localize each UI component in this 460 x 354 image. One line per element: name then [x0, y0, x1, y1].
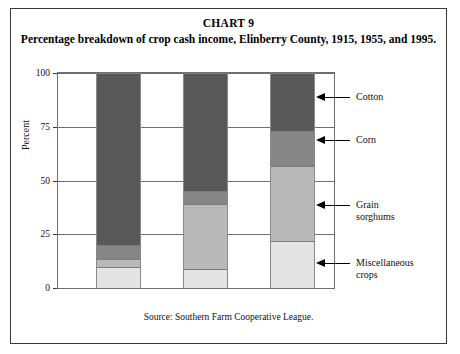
tick-mark-0 [53, 288, 57, 289]
tick-mark-25 [53, 234, 57, 235]
bar-1995-grain-sorghums[interactable] [270, 166, 315, 241]
bar-1955-corn[interactable] [183, 191, 228, 204]
chart-number: CHART 9 [12, 16, 445, 31]
arrow-left-icon [316, 135, 350, 146]
legend-annotation-grain-sorghums: Grain sorghums [316, 200, 395, 222]
y-tick-label-25: 25 [41, 230, 51, 239]
legend-annotation-corn: Corn [316, 135, 376, 146]
legend-label-grain-sorghums: Grain sorghums [356, 199, 395, 222]
y-axis-label: Percent [20, 120, 31, 150]
bar-1995-corn[interactable] [270, 131, 315, 165]
bar-1915-corn[interactable] [96, 245, 141, 259]
y-tick-label-100: 100 [36, 69, 50, 78]
source-note: Source: Southern Farm Cooperative League… [12, 312, 445, 322]
legend-label-miscellaneous-crops: Miscellaneous crops [356, 257, 414, 280]
bar-1995-miscellaneous-crops[interactable] [270, 241, 315, 288]
bar-1915-miscellaneous-crops[interactable] [96, 267, 141, 289]
bar-1955-grain-sorghums[interactable] [183, 204, 228, 269]
tick-mark-75 [53, 127, 57, 128]
tick-mark-100 [53, 73, 57, 74]
bar-1995-cotton[interactable] [270, 73, 315, 131]
bar-1955-miscellaneous-crops[interactable] [183, 269, 228, 288]
bar-1915-cotton[interactable] [96, 73, 141, 245]
plot-area: 100 75 50 25 0 [57, 72, 335, 289]
chart-title: Percentage breakdown of crop cash income… [12, 31, 445, 47]
tick-mark-50 [53, 181, 57, 182]
y-tick-label-75: 75 [41, 122, 51, 131]
legend-annotation-cotton: Cotton [316, 92, 383, 103]
chart-title-block: CHART 9 Percentage breakdown of crop cas… [12, 16, 445, 47]
gridline-0: 0 [58, 288, 334, 289]
arrow-left-icon [316, 200, 350, 211]
bar-1915-grain-sorghums[interactable] [96, 259, 141, 267]
chart-figure: CHART 9 Percentage breakdown of crop cas… [0, 0, 460, 354]
arrow-left-icon [316, 258, 350, 269]
arrow-left-icon [316, 92, 350, 103]
y-tick-label-50: 50 [41, 176, 51, 185]
legend-label-cotton: Cotton [356, 91, 383, 103]
legend-annotation-miscellaneous-crops: Miscellaneous crops [316, 258, 414, 280]
legend-label-corn: Corn [356, 134, 376, 146]
y-tick-label-0: 0 [45, 284, 50, 293]
bar-1955-cotton[interactable] [183, 73, 228, 191]
